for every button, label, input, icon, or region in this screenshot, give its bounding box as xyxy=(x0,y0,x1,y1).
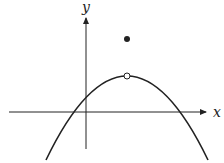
parabola-curve xyxy=(46,76,208,160)
filled-point xyxy=(124,36,130,42)
x-axis-label: x xyxy=(213,104,221,120)
function-graph: x y xyxy=(0,0,224,163)
open-point xyxy=(124,73,130,79)
y-axis-label: y xyxy=(81,0,91,15)
